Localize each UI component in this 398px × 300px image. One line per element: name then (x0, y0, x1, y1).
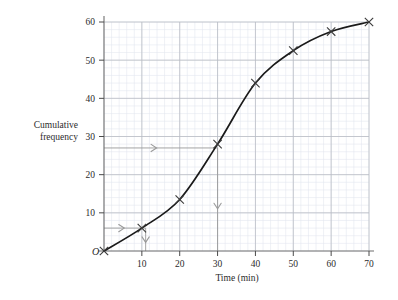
x-axis-ticks (142, 251, 369, 256)
x-axis-tick-labels: 10203040506070 (137, 259, 374, 269)
y-tick-label: 20 (86, 170, 96, 180)
x-tick-label: 50 (289, 259, 299, 269)
y-axis-tick-labels: 102030405060 (86, 17, 96, 218)
y-axis-ticks (99, 22, 104, 213)
y-tick-label: 30 (86, 132, 96, 142)
x-tick-label: 20 (175, 259, 185, 269)
y-tick-label: 50 (86, 56, 96, 66)
y-tick-label: 40 (86, 94, 96, 104)
origin-label: O (92, 246, 99, 257)
chart-svg: 102030405060 10203040506070 O Cumulative… (0, 0, 398, 300)
y-tick-label: 10 (86, 208, 96, 218)
x-tick-label: 70 (364, 259, 374, 269)
x-tick-label: 40 (251, 259, 261, 269)
x-tick-label: 60 (326, 259, 336, 269)
y-axis-label-line2: frequency (40, 132, 78, 142)
x-axis-label: Time (min) (215, 273, 258, 284)
x-tick-label: 30 (213, 259, 223, 269)
cumulative-frequency-chart: 102030405060 10203040506070 O Cumulative… (0, 0, 398, 300)
y-axis-label-line1: Cumulative (34, 120, 78, 130)
y-tick-label: 60 (86, 17, 96, 27)
x-tick-label: 10 (137, 259, 147, 269)
